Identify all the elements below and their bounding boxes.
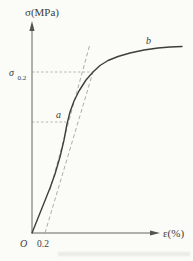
y-axis-label: σ(MPa) xyxy=(25,6,59,19)
sigma02-label-subscript: 0.2 xyxy=(18,74,27,82)
offset-tick-label: 0.2 xyxy=(37,239,49,249)
stress-strain-figure: σ(MPa) ε(%) σ 0.2 a b O 0.2 xyxy=(0,0,193,261)
origin-label: O xyxy=(20,238,27,249)
figure-background xyxy=(0,0,193,261)
x-axis-label: ε(%) xyxy=(163,227,184,240)
scan-artifact xyxy=(58,252,190,256)
point-a-label: a xyxy=(56,109,61,120)
point-b-label: b xyxy=(146,35,151,46)
figure-canvas: σ(MPa) ε(%) σ 0.2 a b O 0.2 xyxy=(0,0,193,261)
